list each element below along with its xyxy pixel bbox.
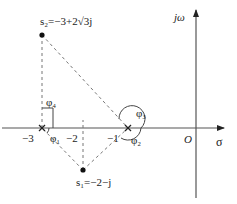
s-plane-diagram: s₂=−3+2√3j s₁=−2−j jω σ O −3 −2 −1 φ₄ φ₁… [0,0,237,204]
imag-axis-label: jω [172,11,185,23]
tick-label-minus1: −1 [107,132,119,144]
origin-label: O [184,133,192,145]
s2-to-pole-minus1 [42,35,128,128]
right-angle-marker [42,108,53,128]
phi4-label: φ₄ [46,96,56,108]
phi3-label: φ₃ [136,107,146,119]
s2-label: s₂=−3+2√3j [40,15,92,27]
point-s2 [39,32,44,37]
phi1-label: φ₁ [50,132,60,144]
s1-label: s₁=−2−j [76,176,111,188]
tick-label-minus3: −3 [22,132,34,144]
s1-to-pole-minus1 [83,128,128,170]
point-s1 [80,167,85,172]
phi1-arc [47,128,49,133]
phi2-label: φ₂ [131,134,141,146]
real-axis-label: σ [216,135,223,149]
tick-label-minus2: −2 [66,132,78,144]
